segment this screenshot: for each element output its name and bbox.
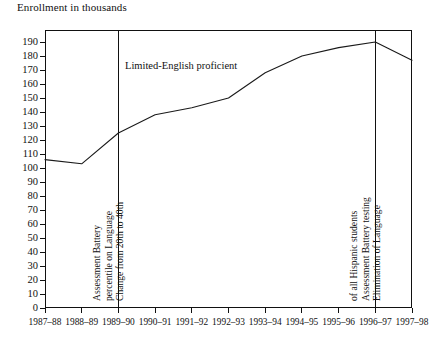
x-axis-tick bbox=[81, 308, 82, 313]
y-axis-label: 10 bbox=[0, 289, 38, 300]
x-axis-label: 1990–91 bbox=[139, 317, 172, 328]
y-axis-label: 130 bbox=[0, 121, 38, 132]
y-axis-label: 120 bbox=[0, 135, 38, 146]
y-axis-label: 190 bbox=[0, 37, 38, 48]
x-axis-tick bbox=[338, 308, 339, 313]
x-axis-tick bbox=[375, 308, 376, 313]
x-axis-tick bbox=[191, 308, 192, 313]
chart-annotation-line: percentile on Language bbox=[103, 211, 115, 301]
chart-annotation-line: Elimination of Language bbox=[371, 205, 383, 301]
x-axis-label: 1994–95 bbox=[285, 317, 318, 328]
y-axis-tick bbox=[40, 266, 45, 267]
x-axis-tick bbox=[301, 308, 302, 313]
chart-annotation-line: of all Hispanic students bbox=[348, 211, 360, 301]
x-axis-tick bbox=[118, 308, 119, 313]
x-axis-tick bbox=[45, 308, 46, 313]
y-axis-tick bbox=[40, 42, 45, 43]
y-axis-label: 60 bbox=[0, 219, 38, 230]
y-axis-label: 100 bbox=[0, 163, 38, 174]
x-axis-label: 1987–88 bbox=[29, 317, 62, 328]
y-axis-tick bbox=[40, 84, 45, 85]
x-axis-label: 1995–96 bbox=[322, 317, 355, 328]
chart-annotation-line: Assessment Battery bbox=[91, 225, 103, 301]
x-axis-label: 1991–92 bbox=[175, 317, 208, 328]
y-axis-label: 160 bbox=[0, 79, 38, 90]
y-axis-label: 170 bbox=[0, 65, 38, 76]
y-axis-tick bbox=[40, 280, 45, 281]
y-axis-tick bbox=[40, 210, 45, 211]
chart-annotation-line: Assessment Battery testing bbox=[360, 197, 372, 301]
chart-container: Enrollment in thousands 0102030405060708… bbox=[0, 0, 432, 338]
y-axis-tick bbox=[40, 182, 45, 183]
y-axis-tick bbox=[40, 140, 45, 141]
y-axis-tick bbox=[40, 70, 45, 71]
x-axis-tick bbox=[228, 308, 229, 313]
x-axis-label: 1997–98 bbox=[396, 317, 429, 328]
y-axis-tick bbox=[40, 112, 45, 113]
y-axis-label: 110 bbox=[0, 149, 38, 160]
y-axis-label: 70 bbox=[0, 205, 38, 216]
y-axis-label: 180 bbox=[0, 51, 38, 62]
series-inline-label: Limited-English proficient bbox=[125, 60, 237, 72]
y-axis-tick bbox=[40, 196, 45, 197]
y-axis-tick bbox=[40, 126, 45, 127]
y-axis-tick bbox=[40, 154, 45, 155]
x-axis-label: 1996–97 bbox=[359, 317, 392, 328]
y-axis-label: 50 bbox=[0, 233, 38, 244]
y-axis-label: 20 bbox=[0, 275, 38, 286]
y-axis-tick bbox=[40, 224, 45, 225]
x-axis-tick bbox=[412, 308, 413, 313]
y-axis-tick bbox=[40, 168, 45, 169]
y-axis-label: 80 bbox=[0, 191, 38, 202]
y-axis-label: 0 bbox=[0, 303, 38, 314]
x-axis-label: 1989–90 bbox=[102, 317, 135, 328]
y-axis-tick bbox=[40, 252, 45, 253]
y-axis-label: 40 bbox=[0, 247, 38, 258]
y-axis-tick bbox=[40, 294, 45, 295]
x-axis-label: 1988–89 bbox=[65, 317, 98, 328]
chart-title: Enrollment in thousands bbox=[17, 1, 127, 14]
y-axis-tick bbox=[40, 56, 45, 57]
y-axis-label: 90 bbox=[0, 177, 38, 188]
chart-annotation-line: Change from 20th to 40th bbox=[114, 202, 126, 301]
y-axis-label: 150 bbox=[0, 93, 38, 104]
x-axis-label: 1992–93 bbox=[212, 317, 245, 328]
y-axis-tick bbox=[40, 98, 45, 99]
y-axis-label: 30 bbox=[0, 261, 38, 272]
y-axis-label: 140 bbox=[0, 107, 38, 118]
x-axis-tick bbox=[265, 308, 266, 313]
x-axis-label: 1993–94 bbox=[249, 317, 282, 328]
x-axis-tick bbox=[155, 308, 156, 313]
y-axis-tick bbox=[40, 238, 45, 239]
